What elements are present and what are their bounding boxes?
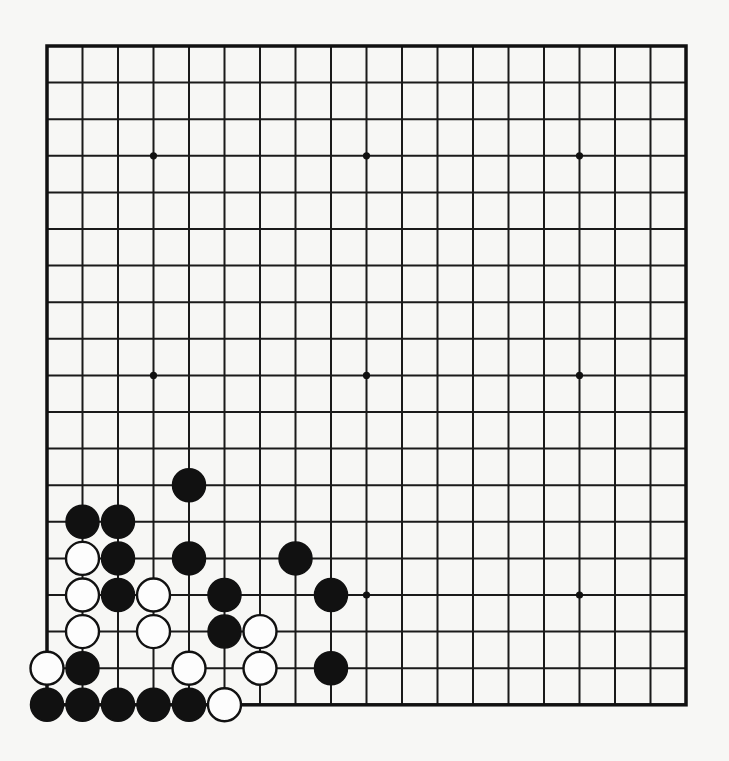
- white-stone: [208, 688, 241, 721]
- white-stone: [66, 579, 99, 612]
- black-stone: [208, 615, 241, 648]
- white-stone: [137, 579, 170, 612]
- black-stone: [173, 542, 206, 575]
- go-board: Go problem diagram (19x19, lower-left co…: [0, 0, 729, 761]
- black-stone: [102, 688, 135, 721]
- black-stone: [315, 652, 348, 685]
- white-stone: [66, 542, 99, 575]
- star-point: [576, 591, 583, 598]
- black-stone: [31, 688, 64, 721]
- black-stone: [208, 579, 241, 612]
- star-point: [576, 152, 583, 159]
- white-stone: [173, 652, 206, 685]
- white-stone: [244, 652, 277, 685]
- go-board-svg: [0, 0, 729, 761]
- white-stone: [244, 615, 277, 648]
- star-point: [363, 152, 370, 159]
- star-point: [150, 152, 157, 159]
- black-stone: [173, 688, 206, 721]
- star-point: [363, 591, 370, 598]
- black-stone: [66, 652, 99, 685]
- black-stone: [102, 505, 135, 538]
- white-stone: [137, 615, 170, 648]
- black-stone: [315, 579, 348, 612]
- star-point: [576, 372, 583, 379]
- black-stone: [66, 505, 99, 538]
- star-point: [150, 372, 157, 379]
- black-stone: [173, 469, 206, 502]
- black-stone: [66, 688, 99, 721]
- white-stone: [66, 615, 99, 648]
- black-stone: [137, 688, 170, 721]
- black-stone: [102, 542, 135, 575]
- star-point: [363, 372, 370, 379]
- black-stone: [279, 542, 312, 575]
- white-stone: [31, 652, 64, 685]
- black-stone: [102, 579, 135, 612]
